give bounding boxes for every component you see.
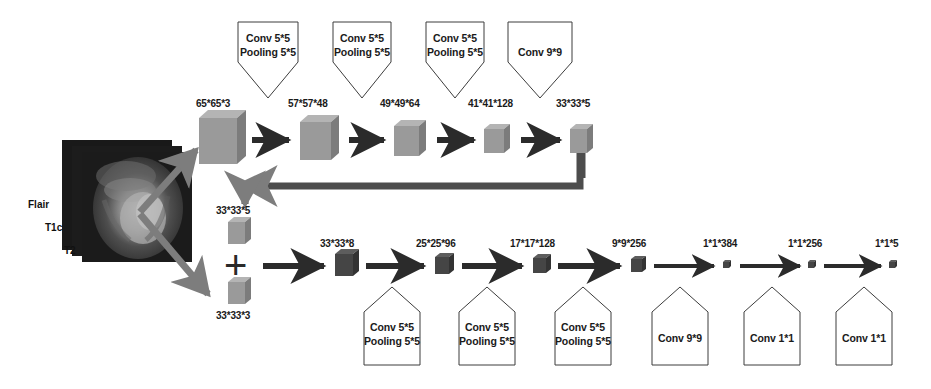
cube-bottom-6 [808,260,816,268]
cube-bottom-4 [631,256,646,272]
op-label-top-2: Conv 5*5 Pooling 5*5 [312,31,412,59]
op-line1: Conv 5*5 [437,320,537,334]
mri-slice-stack [62,140,192,262]
cube-bottom-3 [533,254,551,273]
op-label-top-1: Conv 5*5 Pooling 5*5 [218,31,318,59]
op-line1: Conv 5*5 [405,31,505,45]
op-line1: Conv 9*9 [630,331,730,345]
op-label-bottom-4: Conv 9*9 [630,331,730,345]
size-label-merge-top: 33*33*5 [216,205,250,216]
size-label-top-4: 41*41*128 [468,98,513,109]
cube-bottom-7 [889,260,897,268]
op-line1: Conv 5*5 [218,31,318,45]
size-label-top-5: 33*33*5 [556,98,590,109]
cube-merge-top-input [228,217,251,244]
op-line2: Pooling 5*5 [342,334,442,348]
cube-bottom-1 [335,249,359,276]
size-label-bottom-2: 25*25*96 [416,238,456,249]
op-line1: Conv 9*9 [490,45,590,59]
op-line2: Pooling 5*5 [312,45,412,59]
size-label-bottom-4: 9*9*256 [612,238,646,249]
cube-top-2 [300,115,339,160]
op-label-bottom-5: Conv 1*1 [722,331,822,345]
cube-top-5 [570,124,593,153]
op-pentagon-bottom-5 [744,287,800,365]
op-pentagon-top-4 [508,22,572,98]
op-pentagon-bottom-6 [836,287,892,365]
op-line1: Conv 1*1 [722,331,822,345]
feedback-line [244,153,580,186]
op-label-bottom-6: Conv 1*1 [814,331,914,345]
size-label-bottom-7: 1*1*5 [875,238,898,249]
op-line1: Conv 1*1 [814,331,914,345]
feedback-routing-path [244,153,582,204]
cube-top-4 [484,124,510,153]
cube-top-3 [394,120,426,156]
op-pentagon-bottom-4 [652,287,708,365]
op-line1: Conv 5*5 [312,31,412,45]
size-label-bottom-3: 17*17*128 [510,238,555,249]
op-label-top-4: Conv 9*9 [490,45,590,59]
size-label-bottom-5: 1*1*384 [703,238,737,249]
diagram-canvas: Flair T1c T2 Conv 5*5 Pooling 5*5 Conv 5… [0,0,931,389]
modality-label-flair: Flair [28,199,49,210]
modality-label-t2: T2 [64,245,76,256]
bottom-feature-cubes [335,249,897,276]
op-line2: Pooling 5*5 [533,334,633,348]
op-line1: Conv 5*5 [533,320,633,334]
size-label-bottom-1: 33*33*8 [320,238,354,249]
modality-label-t1c: T1c [45,222,62,233]
size-label-bottom-6: 1*1*256 [788,238,822,249]
size-label-top-3: 49*49*64 [380,98,420,109]
op-label-bottom-1: Conv 5*5 Pooling 5*5 [342,320,442,348]
op-line2: Pooling 5*5 [437,334,537,348]
size-label-top-1: 65*65*3 [196,98,230,109]
op-label-bottom-2: Conv 5*5 Pooling 5*5 [437,320,537,348]
cube-bottom-5 [723,260,731,268]
merge-plus-symbol: + [224,245,247,285]
op-label-bottom-3: Conv 5*5 Pooling 5*5 [533,320,633,348]
op-line2: Pooling 5*5 [218,45,318,59]
op-line1: Conv 5*5 [342,320,442,334]
size-label-merge-bottom: 33*33*3 [216,310,250,321]
size-label-top-2: 57*57*48 [288,98,328,109]
cube-top-1 [199,110,246,164]
cube-bottom-2 [435,253,454,274]
